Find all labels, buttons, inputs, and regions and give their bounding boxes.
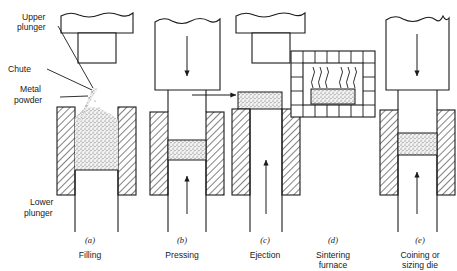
caption-text-e2: sizing die: [402, 260, 438, 270]
caption-text-b: Pressing: [165, 250, 199, 260]
compact-e: [398, 133, 437, 155]
label-metal-powder-line2: powder: [14, 95, 42, 105]
panel-sintering-furnace: [291, 51, 375, 117]
caption-letter-c: (c): [260, 235, 270, 245]
caption-text-e: Coining or: [400, 250, 439, 260]
caption-text-c: Ejection: [250, 250, 281, 260]
label-upper-plunger-line1: Upper: [22, 12, 46, 22]
die-wall-left-b: [150, 112, 168, 195]
compact-b: [168, 140, 206, 160]
caption-text-d2: furnace: [319, 260, 348, 270]
die-wall-left-a: [57, 107, 75, 195]
compact-d: [311, 89, 355, 104]
die-wall-left-e: [380, 110, 398, 195]
die-wall-left-c: [232, 109, 250, 195]
label-lower-plunger-line1: Lower: [30, 197, 54, 207]
caption-letter-d: (d): [328, 235, 338, 245]
caption-letter-e: (e): [415, 235, 425, 245]
die-wall-right-a: [118, 107, 136, 195]
compact-c: [238, 92, 282, 109]
caption-text-d: Sintering: [316, 250, 350, 260]
die-wall-right-e: [437, 110, 455, 195]
label-upper-plunger-line2: plunger: [17, 22, 46, 32]
label-chute: Chute: [8, 64, 31, 74]
powder-metallurgy-figure: Upper plunger Chute Metal powder Lower p…: [0, 0, 457, 271]
caption-letter-a: (a): [85, 235, 95, 245]
die-wall-right-c: [282, 109, 300, 195]
die-wall-right-b: [206, 112, 224, 195]
label-lower-plunger-line2: plunger: [24, 208, 53, 218]
caption-letter-b: (b): [177, 235, 187, 245]
caption-text-a: Filling: [79, 250, 102, 260]
label-metal-powder-line1: Metal: [20, 84, 41, 94]
